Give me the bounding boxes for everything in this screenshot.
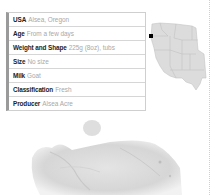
info-row-milk: MilkGoat: [9, 69, 145, 83]
producer-label: Producer: [13, 100, 40, 107]
info-row-weight-shape: Weight and Shape225g (8oz), tubs: [9, 41, 145, 55]
info-row-classification: ClassificationFresh: [9, 83, 145, 97]
info-row-country: USAAlsea, Oregon: [9, 13, 145, 27]
info-row-age: AgeFrom a few days: [9, 27, 145, 41]
location-marker-icon: [149, 34, 153, 38]
page-divider: [209, 0, 210, 195]
weight-shape-label: Weight and Shape: [13, 44, 67, 51]
milk-value: Goat: [27, 72, 41, 79]
western-us-map: [146, 18, 210, 98]
age-label: Age: [13, 30, 25, 37]
info-row-producer: ProducerAlsea Acre: [9, 97, 145, 110]
classification-label: Classification: [13, 86, 53, 93]
size-label: Size: [13, 58, 25, 65]
country-label: USA: [13, 16, 26, 23]
cheese-info-table: USAAlsea, Oregon AgeFrom a few days Weig…: [6, 12, 146, 111]
age-value: From a few days: [27, 30, 74, 37]
size-value: No size: [27, 58, 48, 65]
milk-label: Milk: [13, 72, 25, 79]
weight-shape-value: 225g (8oz), tubs: [69, 44, 115, 51]
cheese-photo: [20, 118, 190, 195]
classification-value: Fresh: [55, 86, 71, 93]
producer-value: Alsea Acre: [42, 100, 73, 107]
info-row-size: SizeNo size: [9, 55, 145, 69]
country-value: Alsea, Oregon: [28, 16, 69, 23]
